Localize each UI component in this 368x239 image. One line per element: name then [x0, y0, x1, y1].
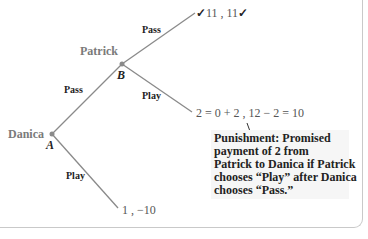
payoff-pass-pass: ✓11 , 11✓	[196, 6, 248, 21]
branch-label-b-pass: Pass	[142, 24, 161, 35]
node-label-a: A	[46, 138, 54, 153]
annotation-line: chooses “Pass.”	[214, 184, 346, 197]
player-label-danica: Danica	[8, 127, 44, 142]
branch-label-a-play: Play	[66, 170, 85, 181]
payoff-pass-pass-values: 11 , 11	[206, 6, 238, 20]
punishment-annotation: Punishment: Promised payment of 2 from P…	[211, 130, 349, 199]
check-icon-left: ✓	[196, 6, 206, 20]
node-a-dot	[50, 132, 55, 137]
branch-a-play-line	[52, 134, 118, 208]
payoff-play: 1 , −10	[122, 203, 156, 218]
branch-label-a-pass: Pass	[64, 84, 83, 95]
branch-b-pass-line	[122, 13, 195, 64]
payoff-pass-play: 2 = 0 + 2 , 12 − 2 = 10	[196, 106, 304, 121]
game-tree-lines	[0, 0, 368, 239]
branch-b-play-line	[122, 64, 192, 112]
branch-a-pass-line	[52, 64, 122, 134]
branch-label-b-play: Play	[142, 90, 161, 101]
node-b-dot	[120, 62, 125, 67]
check-icon-right: ✓	[238, 6, 248, 20]
node-label-b: B	[117, 68, 125, 83]
player-label-patrick: Patrick	[80, 44, 118, 59]
